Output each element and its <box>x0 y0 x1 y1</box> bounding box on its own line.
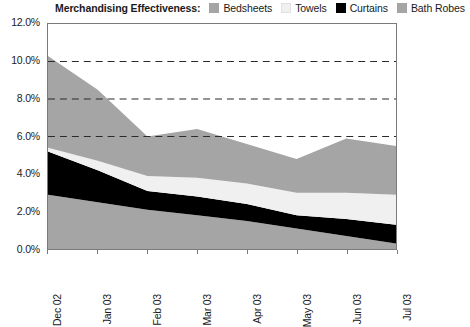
x-tick-mark <box>397 250 398 254</box>
x-tick-label: Jun 03 <box>351 294 363 324</box>
legend-title: Merchandising Effectiveness: <box>55 2 200 14</box>
x-tick-label: Apr 03 <box>251 294 263 324</box>
legend-item-towels[interactable]: Towels <box>281 2 327 14</box>
legend-swatch-bath-robes <box>397 3 407 13</box>
y-tick-label: 6.0% <box>17 130 40 142</box>
y-tick-label: 2.0% <box>17 205 40 217</box>
x-axis: Dec 02Jan 03Feb 03Mar 03Apr 03May 03Jun … <box>47 250 397 300</box>
x-tick-label: Jul 03 <box>401 294 413 321</box>
plot-area <box>47 23 397 250</box>
legend-label-bedsheets: Bedsheets <box>223 2 272 14</box>
chart-legend: Merchandising Effectiveness: Bedsheets T… <box>55 1 470 15</box>
y-tick-label: 10.0% <box>11 54 40 66</box>
legend-swatch-towels <box>281 3 291 13</box>
x-tick-mark <box>97 250 98 254</box>
legend-swatch-curtains <box>336 3 346 13</box>
x-tick-label: Dec 02 <box>51 294 63 326</box>
y-tick-label: 12.0% <box>11 16 40 28</box>
x-tick-mark <box>147 250 148 254</box>
legend-label-bath-robes: Bath Robes <box>411 2 465 14</box>
x-tick-label: Feb 03 <box>151 294 163 326</box>
legend-label-towels: Towels <box>295 2 327 14</box>
legend-label-curtains: Curtains <box>350 2 388 14</box>
x-tick-label: May 03 <box>301 294 313 327</box>
y-axis: 0.0%2.0%4.0%6.0%8.0%10.0%12.0% <box>0 0 44 300</box>
x-tick-mark <box>247 250 248 254</box>
legend-item-curtains[interactable]: Curtains <box>336 2 388 14</box>
y-tick-label: 0.0% <box>17 243 40 255</box>
y-tick-label: 4.0% <box>17 167 40 179</box>
x-tick-mark <box>197 250 198 254</box>
x-tick-mark <box>347 250 348 254</box>
legend-swatch-bedsheets <box>209 3 219 13</box>
y-tick-label: 8.0% <box>17 92 40 104</box>
legend-item-bedsheets[interactable]: Bedsheets <box>209 2 272 14</box>
x-tick-mark <box>47 250 48 254</box>
legend-item-bath-robes[interactable]: Bath Robes <box>397 2 465 14</box>
x-tick-label: Jan 03 <box>101 294 113 324</box>
x-tick-label: Mar 03 <box>201 294 213 325</box>
stacked-area-svg <box>48 24 396 249</box>
x-tick-mark <box>297 250 298 254</box>
